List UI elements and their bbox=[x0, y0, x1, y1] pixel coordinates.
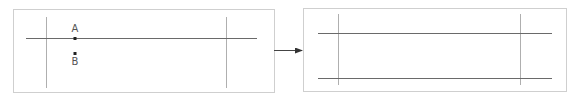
left-panel: AB bbox=[14, 10, 275, 93]
point-b bbox=[74, 52, 77, 55]
point-label-a: A bbox=[72, 23, 79, 34]
point-label-b: B bbox=[72, 56, 79, 67]
diagram-canvas: AB bbox=[0, 0, 578, 96]
point-a bbox=[74, 37, 77, 40]
right-panel-frame bbox=[304, 9, 567, 92]
right-panel bbox=[304, 9, 567, 92]
left-panel-frame bbox=[14, 10, 275, 93]
